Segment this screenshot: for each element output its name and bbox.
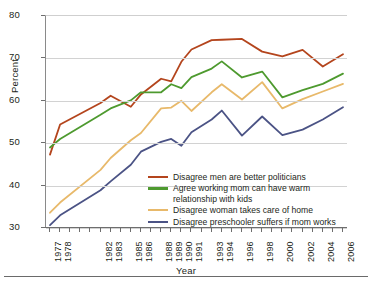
x-tick-mark [130, 228, 131, 232]
x-tick-mark [322, 228, 323, 232]
footer-divider [4, 276, 368, 277]
legend-label: Disagree men are better politicians [173, 172, 306, 182]
y-tick-mark [41, 227, 45, 228]
chart-legend: Disagree men are better politiciansAgree… [148, 172, 336, 228]
x-tick-mark [332, 228, 333, 232]
x-tick-label: 1989 [174, 241, 184, 262]
x-tick-mark [271, 228, 272, 232]
x-tick-mark [281, 228, 282, 232]
x-tick-label: 1991 [194, 241, 204, 262]
x-tick-label: 1986 [144, 241, 154, 262]
x-tick-label: 2006 [346, 241, 356, 262]
x-tick-mark [190, 228, 191, 232]
x-axis-label: Year [0, 265, 372, 276]
x-tick-mark [120, 228, 121, 232]
y-tick-mark [41, 15, 45, 16]
x-tick-mark [221, 228, 222, 232]
x-tick-label: 1978 [63, 241, 73, 262]
x-tick-mark [150, 228, 151, 232]
x-tick-mark [231, 228, 232, 232]
y-tick-label: 60 [0, 94, 20, 105]
legend-label: Disagree woman takes care of home [173, 205, 313, 215]
x-tick-mark [342, 228, 343, 232]
x-tick-label: 2000 [285, 241, 295, 262]
x-tick-label: 1993 [215, 241, 225, 262]
y-tick-label: 40 [0, 179, 20, 190]
x-tick-mark [59, 228, 60, 232]
x-tick-mark [180, 228, 181, 232]
y-tick-label: 30 [0, 221, 20, 232]
x-tick-label: 1988 [164, 241, 174, 262]
legend-item[interactable]: Agree working mom can have warm relation… [148, 183, 336, 204]
x-tick-mark [261, 228, 262, 232]
x-tick-label: 1998 [265, 241, 275, 262]
x-tick-mark [291, 228, 292, 232]
x-tick-mark [49, 228, 50, 232]
x-tick-mark [241, 228, 242, 232]
legend-swatch-icon [148, 221, 168, 223]
legend-item[interactable]: Disagree men are better politicians [148, 172, 336, 182]
x-tick-mark [110, 228, 111, 232]
x-tick-label: 2004 [326, 241, 336, 262]
legend-swatch-icon [148, 176, 168, 178]
x-tick-mark [100, 228, 101, 232]
legend-label: Agree working mom can have warm relation… [173, 183, 310, 204]
x-tick-label: 1977 [53, 241, 63, 262]
series-line-1 [50, 39, 343, 155]
x-tick-mark [89, 228, 90, 232]
y-tick-mark [41, 142, 45, 143]
legend-label: Disagree preschooler suffers if mom work… [173, 217, 336, 227]
legend-swatch-icon [148, 187, 168, 189]
legend-swatch-icon [148, 209, 168, 211]
x-tick-mark [170, 228, 171, 232]
legend-item[interactable]: Disagree preschooler suffers if mom work… [148, 217, 336, 227]
x-tick-label: 1985 [134, 241, 144, 262]
y-tick-label: 80 [0, 9, 20, 20]
x-tick-mark [160, 228, 161, 232]
x-tick-mark [302, 228, 303, 232]
y-axis-label: Percent [9, 59, 20, 93]
x-tick-mark [79, 228, 80, 232]
series-line-2 [50, 61, 343, 147]
y-tick-mark [41, 57, 45, 58]
x-tick-label: 2002 [306, 241, 316, 262]
x-tick-label: 1996 [245, 241, 255, 262]
x-tick-mark [211, 228, 212, 232]
x-tick-label: 1982 [104, 241, 114, 262]
x-tick-label: 1983 [114, 241, 124, 262]
x-tick-mark [251, 228, 252, 232]
x-tick-mark [69, 228, 70, 232]
y-tick-mark [41, 100, 45, 101]
x-tick-mark [201, 228, 202, 232]
y-tick-label: 70 [0, 51, 20, 62]
x-tick-label: 1994 [225, 241, 235, 262]
chart-figure: Percent Year Disagree men are better pol… [0, 0, 372, 285]
legend-item[interactable]: Disagree woman takes care of home [148, 205, 336, 215]
y-tick-label: 50 [0, 136, 20, 147]
x-tick-mark [312, 228, 313, 232]
x-tick-mark [140, 228, 141, 232]
y-tick-mark [41, 185, 45, 186]
x-tick-label: 1990 [184, 241, 194, 262]
